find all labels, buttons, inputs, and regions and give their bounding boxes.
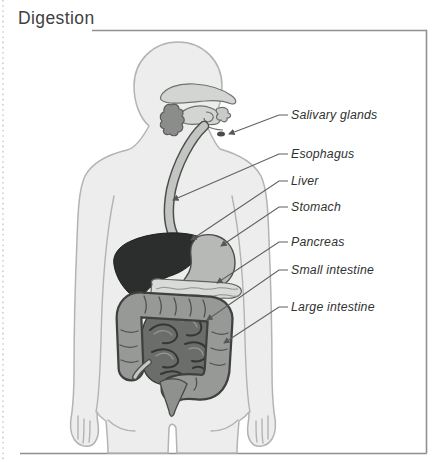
label-large-intestine: Large intestine — [291, 300, 375, 314]
salivary-gland-shape — [160, 104, 184, 136]
label-salivary-glands: Salivary glands — [291, 108, 377, 122]
labels: Salivary glands Esophagus Liver Stomach … — [291, 108, 377, 314]
label-pancreas: Pancreas — [291, 235, 345, 249]
label-small-intestine: Small intestine — [291, 263, 374, 277]
worksheet-page: Digestion — [0, 0, 443, 462]
leader-line-salivary-glands — [229, 115, 288, 134]
sublingual-gland-shape — [217, 132, 225, 137]
soft-palate-shape — [216, 107, 230, 121]
label-esophagus: Esophagus — [291, 147, 354, 161]
palate-shape — [160, 84, 235, 104]
label-stomach: Stomach — [291, 200, 341, 214]
label-liver: Liver — [291, 174, 319, 188]
digestion-diagram: Salivary glands Esophagus Liver Stomach … — [0, 0, 443, 462]
